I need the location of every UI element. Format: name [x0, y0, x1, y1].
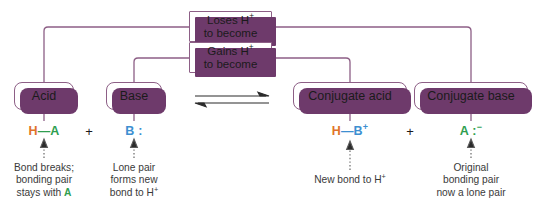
formula-conjugate-base-charge: −: [477, 122, 482, 132]
term-label-conjugate-acid: Conjugate acid: [308, 89, 391, 103]
caption-base: Lone pair forms new bond to H+: [110, 162, 158, 199]
term-box-conjugate-acid: Conjugate acid: [293, 82, 407, 110]
formula-conjugate-acid-atom: B: [354, 124, 363, 138]
banner-loses-h-line1: Loses H: [207, 14, 249, 26]
term-label-conjugate-base: Conjugate base: [427, 89, 515, 103]
term-label-base: Base: [120, 89, 149, 103]
caption-acid: Bond breaks; bonding pair stays with A: [14, 162, 74, 199]
callout-head-conjugate-base: [468, 139, 475, 148]
callout-head-acid: [41, 139, 48, 148]
banner-loses-h-sup: +: [249, 12, 254, 21]
caption-conjugate-acid: New bond to H+: [314, 174, 386, 186]
term-box-conjugate-base: Conjugate base: [414, 82, 528, 110]
banner-gains-h-text: Gains H+ to become: [204, 45, 258, 71]
caption-conjugate-base-line3: now a lone pair: [436, 187, 505, 199]
term-label-acid: Acid: [32, 89, 56, 103]
formula-acid-bond: —: [38, 124, 51, 138]
caption-base-line2: forms new: [110, 174, 158, 186]
formula-conjugate-acid: H—B+: [332, 124, 369, 138]
banner-loses-h-text: Loses H+ to become: [204, 14, 258, 40]
caption-acid-line1: Bond breaks;: [14, 162, 74, 174]
formula-conjugate-base: A :−: [460, 124, 482, 138]
equilibrium-arrow-forward-head: [258, 92, 269, 96]
formula-conjugate-base-atom: A: [460, 124, 469, 138]
plus-operator-right: +: [406, 124, 414, 139]
plus-operator-left: +: [85, 124, 93, 139]
caption-conjugate-base-line1: Original: [436, 162, 505, 174]
caption-base-line3: bond to H+: [110, 187, 158, 199]
formula-base-atom: B: [125, 124, 134, 138]
banner-loses-h-line2: to become: [204, 27, 258, 39]
banner-gains-h-line2: to become: [204, 58, 258, 70]
callout-head-base: [131, 139, 138, 148]
term-box-base: Base: [106, 82, 162, 110]
term-box-acid: Acid: [14, 82, 74, 110]
banner-gains-h-line1: Gains H: [207, 45, 249, 57]
caption-acid-line3: stays with A: [14, 187, 74, 199]
caption-acid-line2: bonding pair: [14, 174, 74, 186]
formula-conjugate-acid-hydrogen: H: [332, 124, 341, 138]
caption-conjugate-base-line2: bonding pair: [436, 174, 505, 186]
equilibrium-arrow-reverse-head: [195, 103, 206, 107]
formula-acid-hydrogen: H: [28, 124, 37, 138]
formula-conjugate-acid-bond: —: [341, 124, 354, 138]
callout-head-conjugate-acid: [347, 141, 354, 150]
banner-gains-h-sup: +: [249, 43, 254, 52]
caption-conjugate-base: Original bonding pair now a lone pair: [436, 162, 505, 199]
formula-acid: H—A: [28, 124, 59, 138]
formula-base: B :: [125, 124, 142, 138]
equilibrium-arrows: [192, 88, 272, 110]
caption-base-line1: Lone pair: [110, 162, 158, 174]
formula-conjugate-acid-charge: +: [363, 122, 368, 132]
formula-conjugate-base-lone-pair: :: [469, 124, 477, 138]
formula-base-lone-pair: :: [135, 124, 143, 138]
caption-conjugate-acid-line1: New bond to H+: [314, 174, 386, 186]
caption-acid-highlight: A: [64, 187, 71, 198]
banner-loses-h: Loses H+ to become: [189, 11, 272, 42]
diagram-canvas: Loses H+ to become Gains H+ to become Ac…: [0, 0, 536, 211]
formula-acid-anion: A: [50, 124, 59, 138]
banner-gains-h: Gains H+ to become: [189, 42, 272, 73]
